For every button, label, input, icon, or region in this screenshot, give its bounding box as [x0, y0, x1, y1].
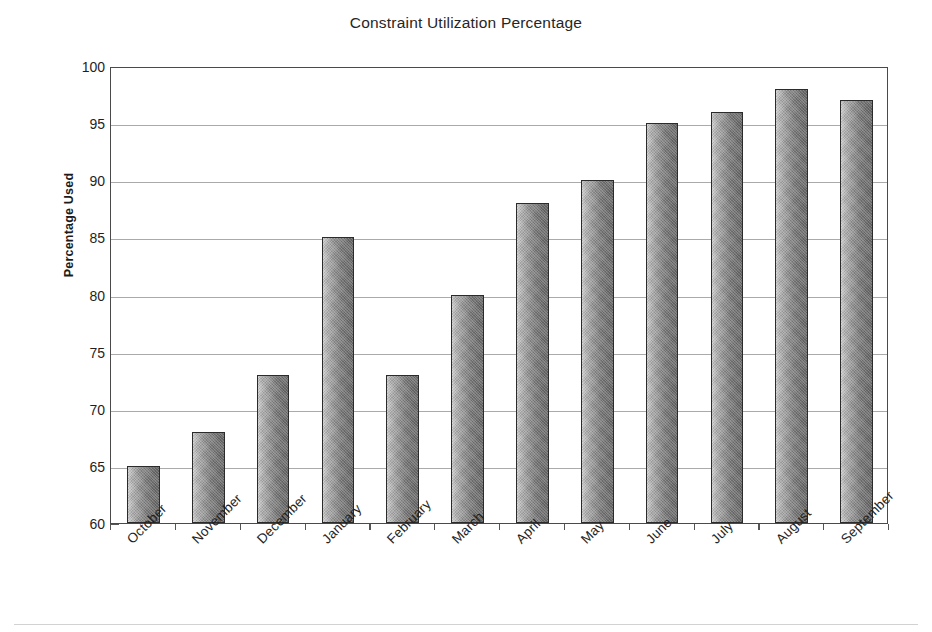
plot-area — [110, 67, 888, 524]
y-axis-tick-labels: 1009590858075706560 — [55, 67, 105, 524]
bar-texture — [582, 181, 613, 522]
bar-texture — [452, 296, 483, 523]
bar-december — [257, 375, 290, 524]
bar-may — [581, 180, 614, 523]
chart-figure: Constraint Utilization Percentage Percen… — [0, 0, 932, 632]
bar-texture — [387, 376, 418, 523]
bar-april — [516, 203, 549, 523]
bar-texture — [841, 101, 872, 522]
bar-texture — [323, 238, 354, 522]
y-tick-label-85: 85 — [59, 230, 105, 246]
chart-title: Constraint Utilization Percentage — [0, 14, 932, 32]
bar-texture — [776, 90, 807, 522]
bottom-divider — [14, 624, 918, 625]
bar-september — [840, 100, 873, 523]
y-tick-label-90: 90 — [59, 173, 105, 189]
bar-march — [451, 295, 484, 524]
y-tick-label-65: 65 — [59, 459, 105, 475]
y-tick-label-80: 80 — [59, 288, 105, 304]
bar-texture — [712, 113, 743, 522]
y-tick-label-70: 70 — [59, 402, 105, 418]
y-tick-label-75: 75 — [59, 345, 105, 361]
bar-january — [322, 237, 355, 523]
y-tick-label-95: 95 — [59, 116, 105, 132]
bar-june — [646, 123, 679, 523]
bar-texture — [258, 376, 289, 523]
bars-layer — [111, 68, 887, 523]
bar-august — [775, 89, 808, 523]
y-tick-label-100: 100 — [59, 59, 105, 75]
bar-texture — [647, 124, 678, 522]
bar-texture — [517, 204, 548, 522]
bar-july — [711, 112, 744, 523]
bar-february — [386, 375, 419, 524]
x-axis-tick-labels: OctoberNovemberDecemberJanuaryFebruaryMa… — [0, 524, 932, 632]
